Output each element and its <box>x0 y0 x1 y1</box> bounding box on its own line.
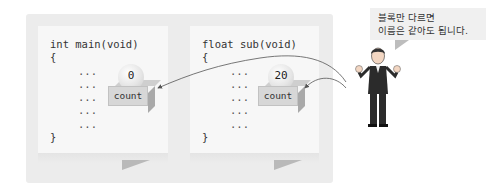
presenter-person-icon <box>355 46 401 128</box>
speech-bubble: 블록만 다르면 이름은 같아도 됩니다. <box>370 8 486 40</box>
arrow-to-main-count-icon <box>158 56 346 88</box>
arrow-to-sub-count-icon <box>305 78 346 88</box>
speech-line-2: 이름은 같아도 됩니다. <box>378 25 468 36</box>
speech-text: 블록만 다르면 이름은 같아도 됩니다. <box>378 11 468 37</box>
speech-line-1: 블록만 다르면 <box>378 12 435 23</box>
